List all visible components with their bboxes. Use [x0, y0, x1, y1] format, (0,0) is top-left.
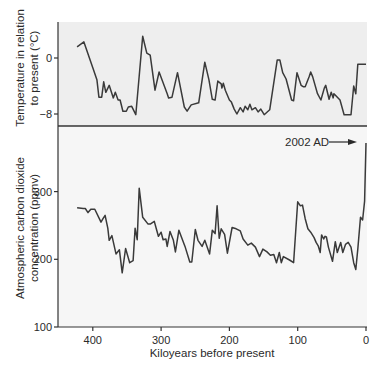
co2-tick-label: 100	[34, 321, 52, 333]
ice-core-chart: 0−83002001004003002001000 Temperature in…	[0, 0, 382, 373]
x-tick-label: 0	[363, 334, 369, 346]
co2-panel-background	[58, 127, 367, 327]
co2-axis-title-line2: concentration (ppmv)	[28, 174, 40, 282]
x-tick-label: 200	[220, 334, 238, 346]
x-tick-label: 100	[289, 334, 307, 346]
co2-axis-title-line1: Atmospheric carbon dioxide	[14, 157, 26, 299]
annotation-2002-ad: 2002 AD	[285, 136, 329, 148]
temperature-tick-label: −8	[39, 108, 52, 120]
temperature-tick-label: 0	[46, 52, 52, 64]
temperature-panel-background	[58, 22, 367, 126]
x-axis-title: Kiloyears before present	[150, 347, 275, 359]
temperature-axis-title-line2: to present (°C)	[28, 30, 40, 105]
x-tick-label: 400	[84, 334, 102, 346]
temperature-axis-title-line1: Temperature in relation	[14, 9, 26, 127]
x-tick-label: 300	[152, 334, 170, 346]
